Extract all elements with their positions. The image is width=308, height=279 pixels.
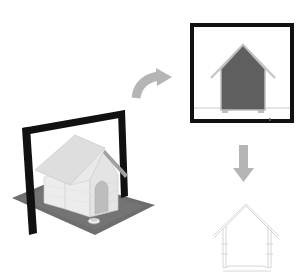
section-diagram bbox=[0, 0, 308, 279]
model-with-section-plane bbox=[12, 110, 155, 235]
section-line-drawing bbox=[213, 204, 279, 271]
dog-house-door bbox=[95, 181, 108, 214]
down-arrow-icon bbox=[233, 145, 254, 182]
curved-arrow-icon bbox=[136, 68, 172, 98]
section-plane-frame bbox=[22, 110, 125, 134]
section-view bbox=[192, 25, 292, 121]
